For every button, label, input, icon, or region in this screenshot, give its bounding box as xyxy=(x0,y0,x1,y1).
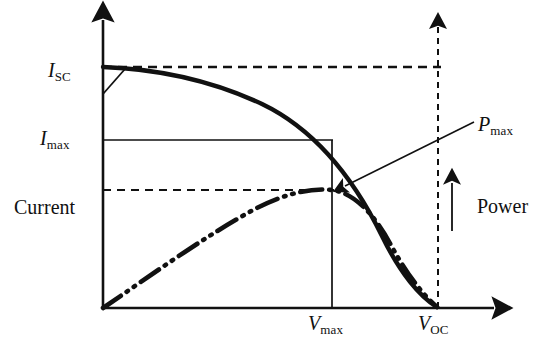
pmax-symbol: P xyxy=(478,113,490,135)
vmax-subscript: max xyxy=(320,322,343,337)
vmax-symbol: V xyxy=(308,312,320,334)
power-axis-label: Power xyxy=(477,196,528,216)
pmax-label: Pmax xyxy=(478,114,513,137)
voc-symbol: V xyxy=(418,312,430,334)
imax-subscript: max xyxy=(47,137,70,152)
iv-curve-plot xyxy=(0,0,545,355)
imax-label: Imax xyxy=(40,128,70,151)
isc-label: ISC xyxy=(48,60,71,83)
current-axis-label: Current xyxy=(14,197,75,217)
isc-slope-line xyxy=(103,69,125,94)
imax-symbol: I xyxy=(40,127,47,149)
voc-label: VOC xyxy=(418,313,449,336)
pmax-subscript: max xyxy=(490,123,513,138)
pmax-pointer-line xyxy=(345,122,474,186)
vmax-label: Vmax xyxy=(308,313,343,336)
isc-subscript: SC xyxy=(55,69,71,84)
isc-symbol: I xyxy=(48,59,55,81)
figure-canvas: ISC Imax Current Pmax Power Vmax VOC xyxy=(0,0,545,355)
voc-subscript: OC xyxy=(430,322,448,337)
